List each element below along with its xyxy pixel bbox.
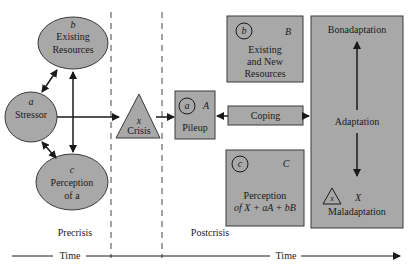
resources-label-1: Existing — [43, 31, 103, 43]
bonadaptation-label: Bonadaptation — [311, 24, 403, 36]
maladaptation-label: Maladaptation — [311, 206, 403, 218]
perception-capital-letter: C — [276, 158, 296, 170]
pileup-capital-letter: A — [198, 100, 214, 112]
perception-circle-letter: c — [230, 158, 250, 170]
coping-label: Coping — [228, 110, 303, 122]
resources-capital-letter: B — [278, 26, 298, 38]
stressor-letter: a — [21, 96, 41, 108]
timeline-left-label: Time — [55, 250, 85, 262]
perception-label-2: of a — [37, 190, 107, 202]
stressor-resources-arrow — [42, 70, 57, 92]
perception-label-1: Perception — [37, 177, 107, 189]
perception-letter: c — [62, 164, 82, 176]
resources-box-label-3: Resources — [230, 68, 300, 80]
perception-box-label-1: Perception — [226, 190, 304, 202]
maladaptation-triangle-letter: x — [322, 193, 342, 205]
precrisis-label: Precrisis — [50, 227, 100, 239]
resources-box-label-1: Existing — [230, 44, 300, 56]
crisis-label: Crisis — [119, 125, 159, 137]
adaptation-label: Adaptation — [311, 116, 403, 128]
resources-circle-letter: b — [234, 25, 254, 37]
resources-label-2: Resources — [38, 44, 108, 56]
resources-box-label-2: and New — [230, 56, 300, 68]
adaptation-capital-letter: X — [348, 192, 368, 204]
perception-box-label-2: of X + aA + bB — [222, 202, 308, 214]
pileup-label: Pileup — [175, 122, 215, 134]
resources-letter: b — [63, 19, 83, 31]
postcrisis-label: Postcrisis — [180, 227, 240, 239]
stressor-label: Stressor — [6, 109, 56, 121]
timeline-right-label: Time — [271, 250, 301, 262]
stressor-perception-arrow — [42, 142, 56, 158]
pileup-circle-letter: a — [177, 100, 197, 112]
